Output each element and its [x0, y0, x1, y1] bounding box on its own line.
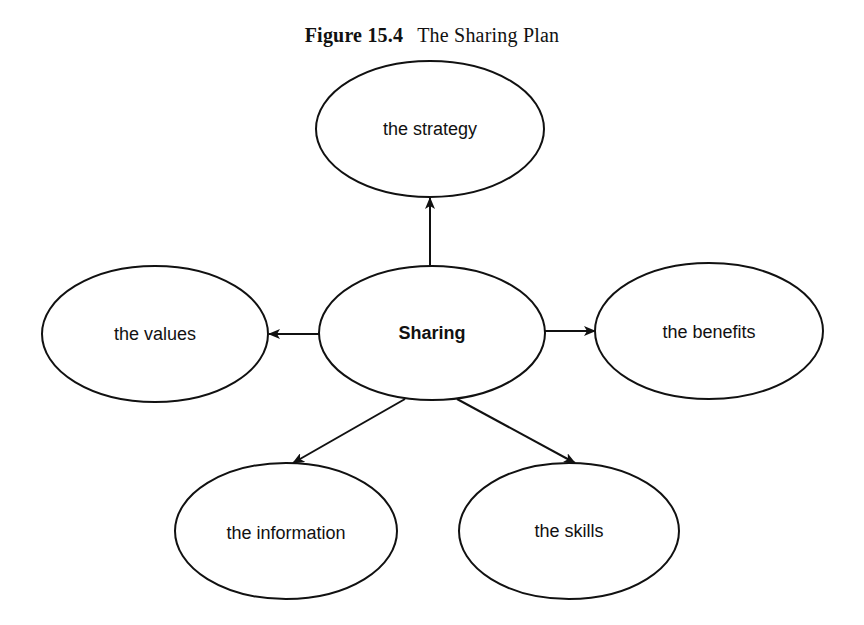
node-values: the values [42, 266, 268, 402]
node-values-label: the values [114, 324, 196, 344]
node-skills-label: the skills [534, 521, 603, 541]
edge-sharing-to-skills [457, 399, 575, 463]
node-benefits: the benefits [595, 263, 823, 399]
edge-sharing-to-information [293, 399, 405, 463]
node-sharing-label: Sharing [398, 323, 465, 343]
node-sharing: Sharing [319, 266, 545, 400]
node-information-label: the information [226, 523, 345, 543]
node-strategy-label: the strategy [383, 119, 477, 139]
node-benefits-label: the benefits [662, 322, 755, 342]
sharing-plan-diagram: the strategy the values Sharing the bene… [0, 0, 864, 625]
node-skills: the skills [459, 463, 679, 599]
node-strategy: the strategy [316, 61, 544, 197]
node-information: the information [175, 463, 397, 599]
